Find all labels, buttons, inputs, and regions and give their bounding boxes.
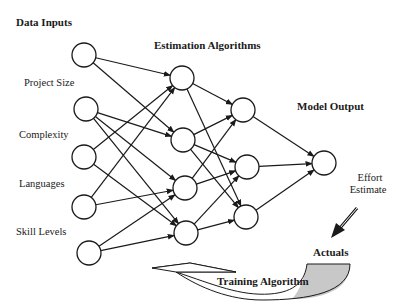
output-label-effort: Effort <box>350 173 390 184</box>
edge <box>256 170 314 210</box>
hidden-node-layer2 <box>231 98 255 122</box>
edge <box>96 58 171 76</box>
input-label-complexity: Complexity <box>19 130 69 141</box>
edge <box>193 84 233 105</box>
input-node <box>72 195 96 219</box>
input-node <box>77 241 101 265</box>
edge <box>259 164 312 167</box>
actuals-label: Actuals <box>313 247 348 258</box>
input-node <box>72 43 96 67</box>
input-label-languages: Languages <box>19 179 64 190</box>
input-node <box>72 145 96 169</box>
connection-edges <box>91 58 314 251</box>
hidden-node-layer1 <box>173 176 197 200</box>
edge <box>192 120 236 179</box>
input-node <box>74 97 98 121</box>
hidden-node-layer1 <box>174 221 198 245</box>
edge <box>253 117 314 157</box>
header-data-inputs: Data Inputs <box>16 17 72 28</box>
header-estimation-algorithms: Estimation Algorithms <box>154 40 261 51</box>
feedback-arrow-icon <box>331 208 357 238</box>
edge <box>198 220 235 230</box>
hidden-node-layer2 <box>234 205 258 229</box>
edge <box>91 88 174 198</box>
input-label-project-size: Project Size <box>24 78 74 89</box>
edge <box>94 164 177 226</box>
header-model-output: Model Output <box>297 101 364 112</box>
hidden-node-layer2 <box>235 155 259 179</box>
training-algorithm-label: Training Algorithm <box>217 276 309 287</box>
hidden-node-layer1 <box>170 66 194 90</box>
neural-network-diagram: Data Inputs Estimation Algorithms Model … <box>0 0 396 308</box>
network-nodes <box>72 43 336 265</box>
output-label-estimate: Estimate <box>343 185 393 196</box>
input-label-skill-levels: Skill Levels <box>16 227 66 238</box>
edge <box>93 86 172 150</box>
output-node <box>312 151 336 175</box>
hidden-node-layer1 <box>171 128 195 152</box>
